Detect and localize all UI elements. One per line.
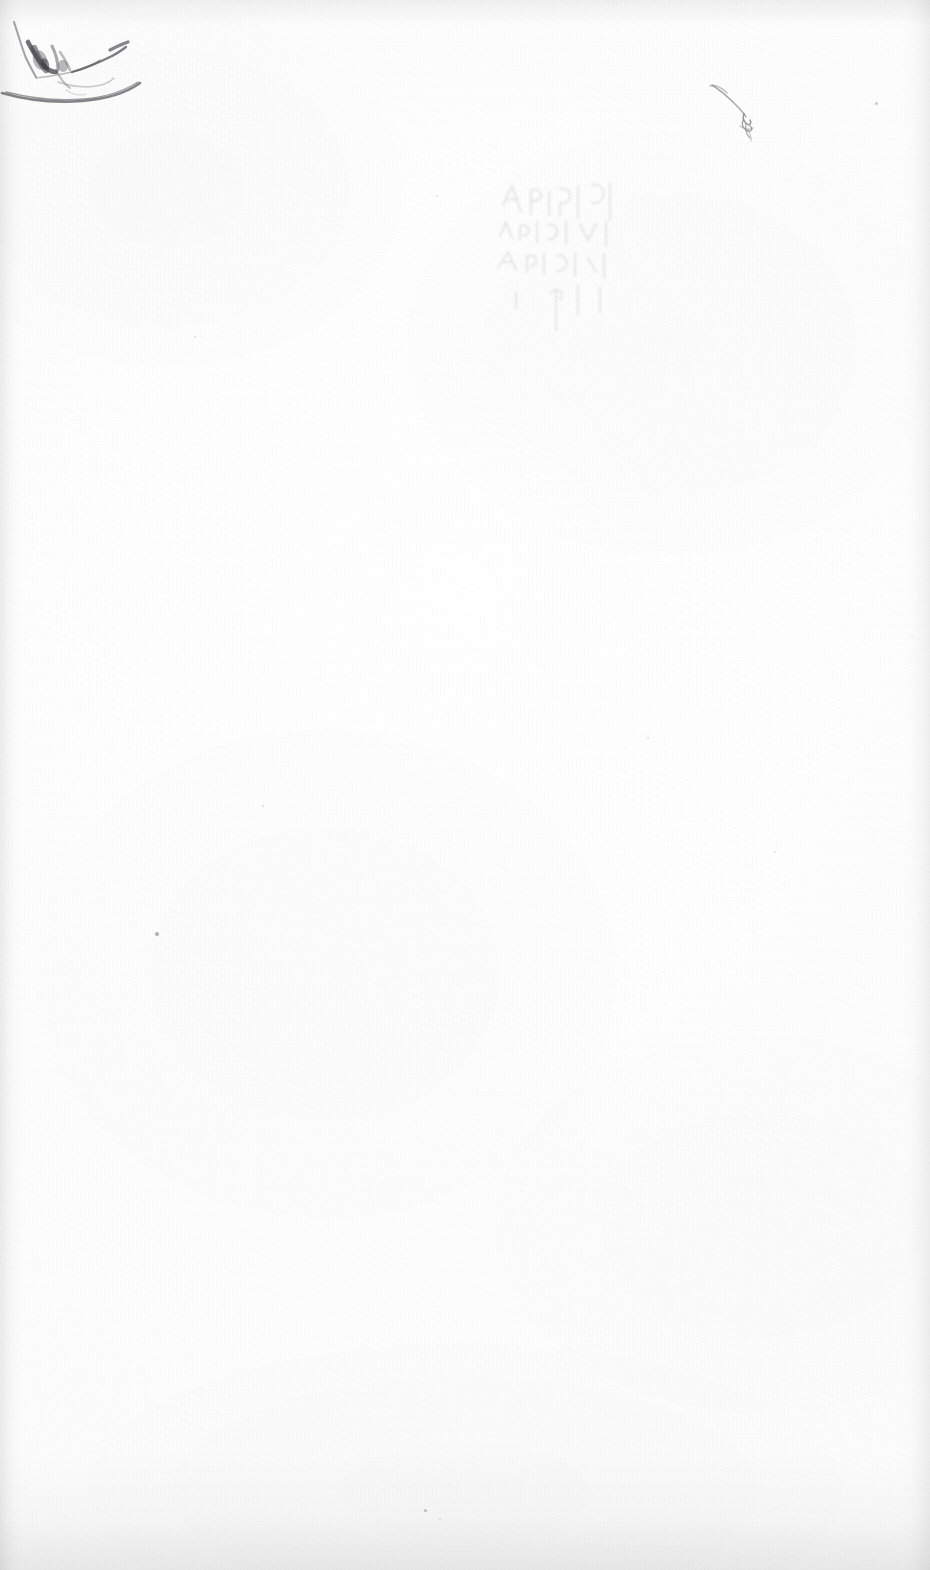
page-edge-shadow-right <box>904 0 930 1570</box>
speck-upper-mid <box>436 195 438 197</box>
speck-upper-right <box>875 102 878 105</box>
speck-mid-low <box>774 851 776 853</box>
scanned-page: Blank scanned sheet <box>0 0 930 1570</box>
speck-lower-right <box>439 1518 441 1520</box>
page-edge-shadow-bottom <box>0 1450 930 1570</box>
page-edge-shadow-top <box>0 0 930 26</box>
page-edge-shadow-left <box>0 0 22 1570</box>
speck-lower-center <box>424 1509 427 1512</box>
speck-center-left <box>155 932 158 935</box>
paper-grain-texture <box>0 0 930 1570</box>
